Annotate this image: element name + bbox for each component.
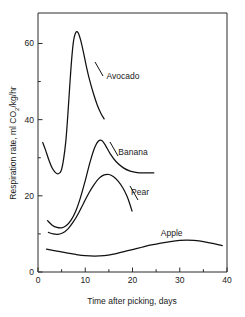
y-axis-title-prefix: Respiration rate, ml CO bbox=[8, 111, 18, 200]
series-curve-avocado bbox=[43, 32, 104, 174]
series-curve-pear bbox=[48, 174, 132, 234]
x-axis-title: Time after picking, days bbox=[87, 296, 176, 306]
y-tick-label: 40 bbox=[25, 115, 35, 125]
series-label-avocado: Avocado bbox=[107, 71, 140, 81]
chart-figure: 0102030400204060 AvocadoBananaPearApple … bbox=[0, 0, 245, 317]
series-label-pear: Pear bbox=[131, 187, 149, 197]
series-label-apple: Apple bbox=[161, 228, 183, 238]
y-axis-title: Respiration rate, ml CO2/kg/hr bbox=[8, 86, 20, 200]
y-tick-label: 20 bbox=[25, 191, 35, 201]
x-tick-label: 0 bbox=[36, 275, 41, 285]
respiration-rate-line-chart: 0102030400204060 AvocadoBananaPearApple … bbox=[0, 0, 245, 317]
data-series-curves bbox=[43, 32, 223, 256]
x-tick-label: 10 bbox=[81, 275, 91, 285]
leader-line-banana bbox=[110, 142, 118, 156]
series-label-banana: Banana bbox=[118, 147, 148, 157]
leader-line-avocado bbox=[95, 62, 103, 76]
series-curve-apple bbox=[47, 240, 223, 256]
svg-text:Respiration rate, ml CO2/kg/hr: Respiration rate, ml CO2/kg/hr bbox=[8, 86, 20, 200]
x-tick-label: 20 bbox=[128, 275, 138, 285]
plot-frame bbox=[38, 13, 227, 272]
y-tick-label: 60 bbox=[25, 38, 35, 48]
x-tick-label: 40 bbox=[222, 275, 232, 285]
y-axis-title-suffix: /kg/hr bbox=[8, 86, 18, 107]
y-tick-label: 0 bbox=[29, 267, 34, 277]
series-annotation-labels: AvocadoBananaPearApple bbox=[107, 71, 183, 238]
x-tick-label: 30 bbox=[175, 275, 185, 285]
